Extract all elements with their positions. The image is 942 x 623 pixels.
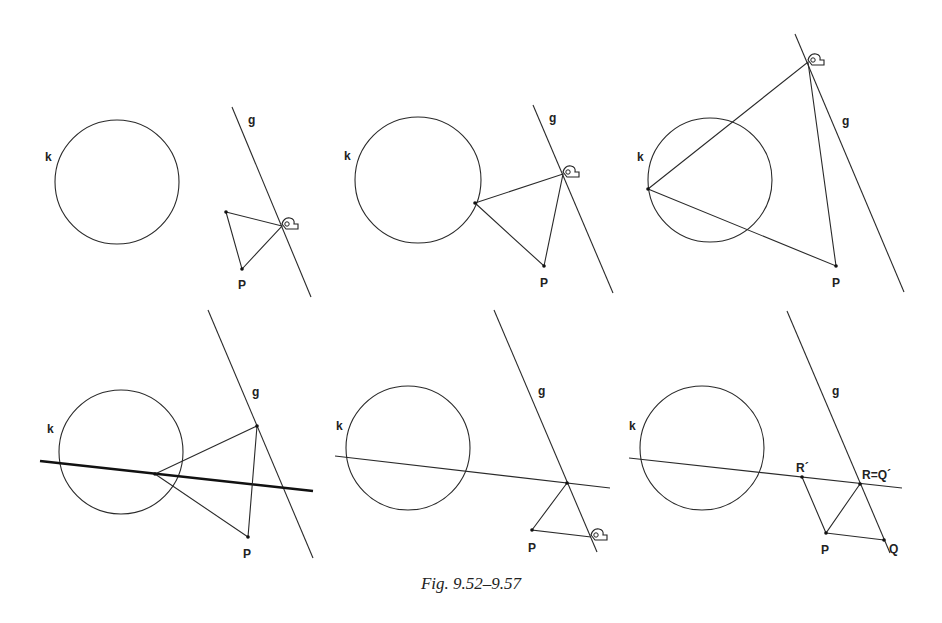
segments-from-p <box>802 477 860 533</box>
triangle <box>226 212 282 269</box>
line-g <box>795 34 904 292</box>
point-r <box>858 482 862 486</box>
label-k: k <box>336 419 343 433</box>
hand-cursor-icon <box>808 54 824 65</box>
label-p: P <box>238 278 246 292</box>
label-p: P <box>243 547 251 561</box>
point-vertex <box>224 210 228 214</box>
label-k: k <box>45 150 52 164</box>
construction-lines <box>532 483 591 537</box>
triangle <box>648 62 836 266</box>
label-k: k <box>344 149 351 163</box>
label-k: k <box>47 422 54 436</box>
point-p <box>824 531 828 535</box>
hand-cursor-icon <box>282 218 298 229</box>
label-k: k <box>629 419 636 433</box>
circle-k <box>640 386 764 510</box>
point-vertex <box>153 472 157 476</box>
label-p: P <box>540 276 548 290</box>
label-r-eq-q-prime: R=Q´ <box>862 468 891 482</box>
label-r-prime: R´ <box>796 461 809 475</box>
hand-cursor-icon <box>563 166 579 177</box>
point-p <box>542 264 546 268</box>
label-q: Q <box>889 542 898 556</box>
point-on-circle <box>473 201 477 205</box>
label-g: g <box>549 111 556 125</box>
line-g <box>494 310 597 552</box>
panel-9-57: k g R´ R=Q´ P Q <box>629 311 902 557</box>
trace-line <box>40 461 313 491</box>
point-on-g <box>255 424 259 428</box>
label-g: g <box>252 385 259 399</box>
circle-k <box>355 117 481 243</box>
circle-k <box>648 118 772 242</box>
line-g <box>787 311 890 553</box>
point-p <box>246 535 250 539</box>
panel-9-54: k g P <box>637 34 904 292</box>
figure-caption: Fig. 9.52–9.57 <box>0 574 942 594</box>
triangle <box>155 426 257 537</box>
label-g: g <box>832 384 839 398</box>
panel-9-52: k g P <box>45 107 311 297</box>
label-g: g <box>248 113 255 127</box>
line-g <box>232 107 311 297</box>
panel-9-53: k g P <box>344 105 613 293</box>
point-on-circle <box>646 187 650 191</box>
segment-pq <box>826 533 884 540</box>
label-g: g <box>538 384 545 398</box>
label-p: P <box>821 543 829 557</box>
label-g: g <box>842 114 849 128</box>
point-p <box>530 528 534 532</box>
point-p <box>240 267 244 271</box>
point-r-prime <box>800 475 804 479</box>
point-p <box>834 264 838 268</box>
hand-cursor-icon <box>591 529 607 540</box>
label-p: P <box>528 541 536 555</box>
point-q <box>882 538 886 542</box>
triangle <box>475 174 563 266</box>
circle-k <box>59 390 183 514</box>
label-p: P <box>832 276 840 290</box>
circle-k <box>55 120 179 244</box>
panel-9-56: k g P <box>335 310 610 555</box>
label-k: k <box>637 150 644 164</box>
panel-9-55: k g P <box>40 310 313 561</box>
circle-k <box>346 386 470 510</box>
figure-canvas: k g P k g P k g P <box>0 0 942 623</box>
point-intersection <box>565 481 569 485</box>
